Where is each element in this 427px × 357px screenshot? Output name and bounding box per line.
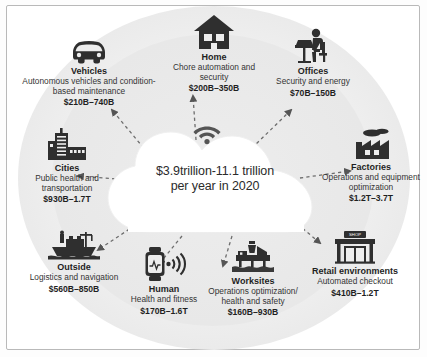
node-vehicles[interactable]: Vehicles Autonomous vehicles and conditi… [14, 38, 164, 108]
shop-sign-text: SHOP [349, 232, 361, 237]
office-worker-icon [293, 28, 333, 64]
smartwatch-icon [140, 246, 188, 282]
infographic-canvas: $3.9trillion-11.1 trillion per year in 2… [0, 0, 427, 357]
factory-icon [348, 128, 394, 160]
node-value: $70B–150B [258, 88, 368, 99]
node-description: Health and fitness [118, 295, 210, 305]
node-value: $170B–1.6T [118, 306, 210, 317]
node-value: $200B–350B [160, 83, 268, 94]
shop-icon: SHOP [331, 230, 379, 264]
node-value: $1.2T–3.7T [318, 193, 424, 204]
oil-rig-icon [230, 240, 276, 274]
node-description: Security and energy [258, 77, 368, 87]
car-icon [69, 38, 109, 64]
wifi-icon [192, 122, 222, 146]
node-home[interactable]: Home Chore automation and security $200B… [160, 14, 268, 94]
node-cities[interactable]: Cities Public health and transportation … [10, 127, 124, 205]
node-factories[interactable]: Factories Operations and equipment optim… [318, 128, 424, 204]
node-description: Automated checkout [292, 277, 418, 287]
node-value: $560B–850B [16, 284, 132, 295]
node-value: $930B–1.7T [10, 194, 124, 205]
node-description: Logistics and navigation [16, 273, 132, 283]
node-description: Autonomous vehicles and condition-based … [14, 77, 164, 96]
node-description: Operations optimization/ health and safe… [196, 287, 310, 306]
node-value: $410B–1.2T [292, 288, 418, 299]
node-description: Operations and equipment optimization [318, 173, 424, 192]
node-offices[interactable]: Offices Security and energy $70B–150B [258, 28, 368, 99]
city-buildings-icon [44, 127, 90, 161]
node-description: Chore automation and security [160, 63, 268, 82]
node-worksites[interactable]: Worksites Operations optimization/ healt… [196, 240, 310, 318]
cloud-value-text: $3.9trillion-11.1 trillion per year in 2… [104, 164, 326, 194]
node-outside[interactable]: Outside Logistics and navigation $560B–8… [16, 230, 132, 295]
node-description: Public health and transportation [10, 174, 124, 193]
node-value: $160B–930B [196, 307, 310, 318]
node-value: $210B–740B [14, 97, 164, 108]
cargo-ship-icon [47, 230, 101, 260]
house-icon [193, 14, 235, 50]
cloud-value-line1: $3.9trillion-11.1 trillion [104, 164, 326, 179]
node-retail[interactable]: SHOP Retail environments Automated check… [292, 230, 418, 299]
cloud-value-line2: per year in 2020 [104, 179, 326, 194]
